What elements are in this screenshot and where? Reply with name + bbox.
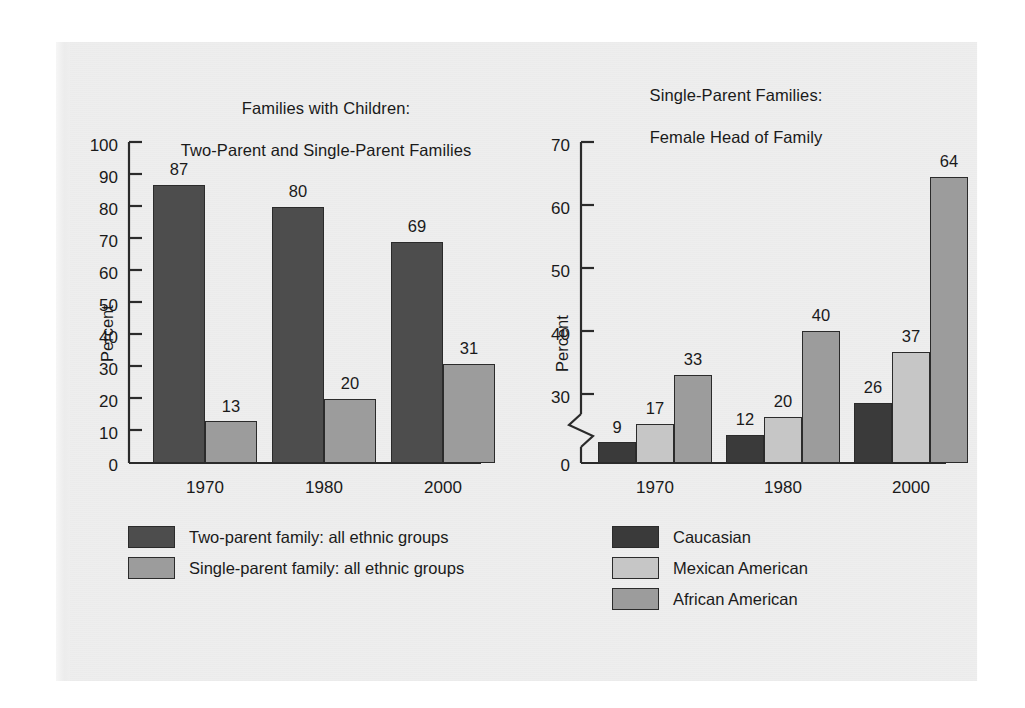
legend-item-two-parent: Two-parent family: all ethnic groups	[128, 526, 464, 548]
bar-value-left-1980-single-parent: 20	[324, 375, 376, 392]
left-xtick-1970: 1970	[153, 479, 257, 496]
bar-value-right-2000-caucasian: 26	[854, 379, 892, 396]
bar-value-right-1980-african-american: 40	[802, 307, 840, 324]
right-xtick-1980: 1980	[726, 479, 840, 496]
right-xtick-1970: 1970	[598, 479, 712, 496]
bar-value-left-1970-single-parent: 13	[205, 398, 257, 415]
bar-value-left-2000-single-parent: 31	[443, 340, 495, 357]
bar-value-left-1980-two-parent: 80	[272, 183, 324, 200]
legend-swatch-mexican-american-icon	[612, 557, 659, 579]
bar-value-right-1970-mexican-american: 17	[636, 400, 674, 417]
bar-value-right-1970-caucasian: 9	[598, 419, 636, 436]
left-chart-legend: Two-parent family: all ethnic groups Sin…	[128, 526, 464, 588]
legend-swatch-two-parent-icon	[128, 526, 175, 548]
bar-value-left-1970-two-parent: 87	[153, 161, 205, 178]
bar-right-2000-mexican-american	[892, 352, 930, 463]
legend-label-caucasian: Caucasian	[673, 528, 751, 547]
legend-swatch-single-parent-icon	[128, 557, 175, 579]
bar-left-1980-single-parent	[324, 399, 376, 463]
legend-label-two-parent: Two-parent family: all ethnic groups	[189, 528, 449, 547]
legend-label-african-american: African American	[673, 590, 798, 609]
scanned-paper-area: Families with Children: Two-Parent and S…	[56, 42, 978, 681]
bar-left-1970-two-parent	[153, 185, 205, 463]
bar-value-left-2000-two-parent: 69	[391, 218, 443, 235]
right-chart: Single-Parent Families: Female Head of F…	[526, 42, 978, 562]
bar-right-2000-caucasian	[854, 403, 892, 463]
bar-right-1970-african-american	[674, 375, 712, 463]
legend-item-african-american: African American	[612, 588, 808, 610]
legend-swatch-african-american-icon	[612, 588, 659, 610]
bar-right-1970-caucasian	[598, 442, 636, 463]
legend-item-single-parent: Single-parent family: all ethnic groups	[128, 557, 464, 579]
bar-right-1970-mexican-american	[636, 424, 674, 463]
bar-right-1980-caucasian	[726, 435, 764, 463]
right-chart-legend: Caucasian Mexican American African Ameri…	[612, 526, 808, 619]
bar-value-right-1980-caucasian: 12	[726, 411, 764, 428]
legend-label-single-parent: Single-parent family: all ethnic groups	[189, 559, 464, 578]
left-xtick-2000: 2000	[391, 479, 495, 496]
right-xtick-2000: 2000	[854, 479, 968, 496]
left-xtick-1980: 1980	[272, 479, 376, 496]
legend-item-caucasian: Caucasian	[612, 526, 808, 548]
bar-left-2000-single-parent	[443, 364, 495, 463]
bar-left-1980-two-parent	[272, 207, 324, 463]
bar-left-1970-single-parent	[205, 421, 257, 463]
bar-left-2000-two-parent	[391, 242, 443, 463]
left-chart: Families with Children: Two-Parent and S…	[56, 42, 526, 562]
figure-page: Families with Children: Two-Parent and S…	[0, 0, 1025, 708]
bar-right-1980-african-american	[802, 331, 840, 463]
bar-value-right-2000-mexican-american: 37	[892, 328, 930, 345]
bar-value-right-1980-mexican-american: 20	[764, 393, 802, 410]
legend-label-mexican-american: Mexican American	[673, 559, 808, 578]
bar-value-right-1970-african-american: 33	[674, 351, 712, 368]
legend-swatch-caucasian-icon	[612, 526, 659, 548]
bar-value-right-2000-african-american: 64	[930, 153, 968, 170]
axis-break-zigzag-icon	[569, 414, 593, 447]
bar-right-1980-mexican-american	[764, 417, 802, 463]
bar-right-2000-african-american	[930, 177, 968, 463]
legend-item-mexican-american: Mexican American	[612, 557, 808, 579]
